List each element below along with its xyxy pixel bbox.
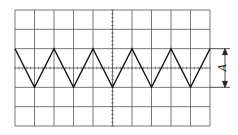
amplitude-label: A bbox=[216, 64, 229, 72]
oscilloscope-screen bbox=[0, 0, 238, 135]
